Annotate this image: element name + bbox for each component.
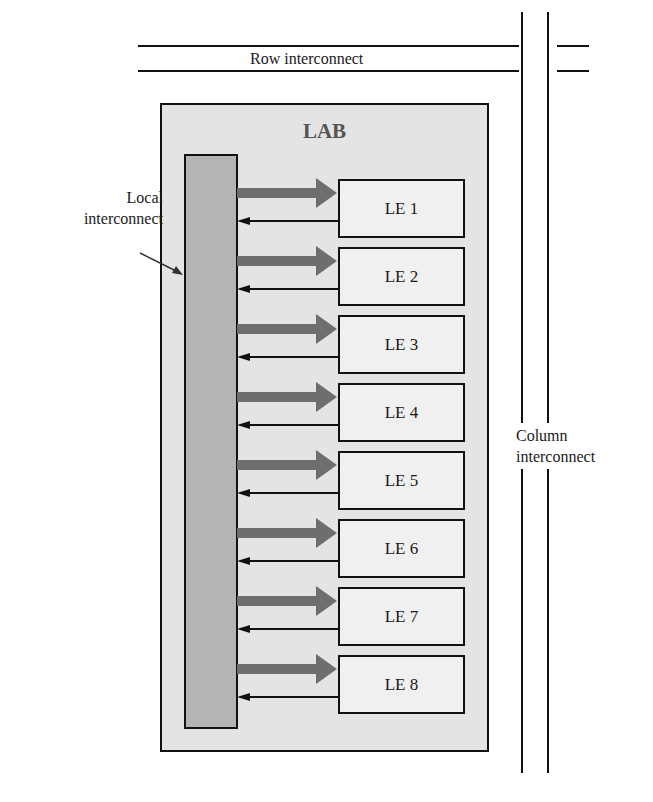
logic-element-4: LE 4 bbox=[338, 383, 465, 442]
logic-element-2: LE 2 bbox=[338, 247, 465, 306]
le-label: LE 5 bbox=[385, 471, 419, 491]
le-label: LE 6 bbox=[385, 539, 419, 559]
logic-element-6: LE 6 bbox=[338, 519, 465, 578]
le-label: LE 3 bbox=[385, 335, 419, 355]
le-arrows bbox=[237, 178, 338, 701]
le-label: LE 8 bbox=[385, 675, 419, 695]
arrows-layer bbox=[0, 0, 653, 802]
logic-element-1: LE 1 bbox=[338, 179, 465, 238]
logic-element-8: LE 8 bbox=[338, 655, 465, 714]
logic-element-3: LE 3 bbox=[338, 315, 465, 374]
le-label: LE 2 bbox=[385, 267, 419, 287]
le-label: LE 4 bbox=[385, 403, 419, 423]
le-label: LE 1 bbox=[385, 199, 419, 219]
logic-element-5: LE 5 bbox=[338, 451, 465, 510]
le-label: LE 7 bbox=[385, 607, 419, 627]
logic-element-7: LE 7 bbox=[338, 587, 465, 646]
